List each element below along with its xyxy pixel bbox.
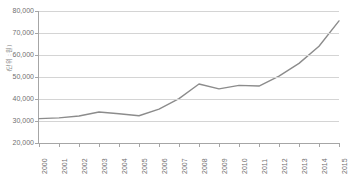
x-axis-tick-mark — [219, 143, 220, 147]
y-axis-tick-label: 20,000 — [13, 139, 34, 147]
x-axis-tick-mark — [259, 143, 260, 147]
x-axis-tick-mark — [159, 143, 160, 147]
y-axis-tick-mark — [35, 33, 39, 34]
x-axis-tick-mark — [119, 143, 120, 147]
x-axis-tick-mark — [279, 143, 280, 147]
x-axis-tick-mark — [319, 143, 320, 147]
y-axis-tick-mark — [35, 55, 39, 56]
y-axis-tick-label: 40,000 — [13, 95, 34, 103]
x-axis-tick-label-group: 2000200120022003200420052006200720082009… — [38, 148, 340, 178]
x-axis-tick-label: 2006 — [161, 148, 169, 174]
x-axis-tick-label: 2015 — [341, 148, 349, 174]
y-axis-tick-mark — [35, 77, 39, 78]
y-axis-tick-label: 70,000 — [13, 29, 34, 37]
x-axis-tick-label: 2014 — [321, 148, 329, 174]
plot-area — [38, 11, 339, 144]
x-axis-tick-mark — [59, 143, 60, 147]
gridline-horizontal — [39, 99, 339, 100]
x-axis-tick-label: 2009 — [221, 148, 229, 174]
x-axis-tick-mark — [299, 143, 300, 147]
y-axis-tick-label-group: 20,00030,00040,00050,00060,00070,00080,0… — [0, 0, 36, 150]
x-axis-tick-label: 2003 — [101, 148, 109, 174]
x-axis-tick-mark — [199, 143, 200, 147]
x-axis-tick-mark — [139, 143, 140, 147]
x-axis-tick-mark — [239, 143, 240, 147]
data-series-line — [39, 21, 339, 119]
gridline-horizontal — [39, 77, 339, 78]
y-axis-tick-mark — [35, 99, 39, 100]
y-axis-tick-label: 80,000 — [13, 7, 34, 15]
line-chart-figure: (단위 : 원) 20,00030,00040,00050,00060,0007… — [0, 0, 349, 184]
gridline-horizontal — [39, 121, 339, 122]
y-axis-tick-label: 30,000 — [13, 117, 34, 125]
x-axis-tick-mark — [339, 143, 340, 147]
gridline-horizontal — [39, 55, 339, 56]
x-axis-tick-label: 2007 — [181, 148, 189, 174]
x-axis-tick-label: 2010 — [241, 148, 249, 174]
gridline-horizontal — [39, 11, 339, 12]
x-axis-tick-mark — [79, 143, 80, 147]
x-axis-tick-label: 2000 — [41, 148, 49, 174]
x-axis-tick-label: 2008 — [201, 148, 209, 174]
x-axis-tick-label: 2004 — [121, 148, 129, 174]
x-axis-tick-mark — [99, 143, 100, 147]
gridline-horizontal — [39, 33, 339, 34]
x-axis-tick-label: 2005 — [141, 148, 149, 174]
x-axis-tick-label: 2011 — [261, 148, 269, 174]
x-axis-tick-label: 2002 — [81, 148, 89, 174]
y-axis-tick-label: 60,000 — [13, 51, 34, 59]
x-axis-tick-label: 2012 — [281, 148, 289, 174]
y-axis-tick-mark — [35, 11, 39, 12]
x-axis-tick-mark — [39, 143, 40, 147]
x-axis-tick-label: 2013 — [301, 148, 309, 174]
y-axis-tick-mark — [35, 121, 39, 122]
x-axis-tick-mark — [179, 143, 180, 147]
y-axis-tick-label: 50,000 — [13, 73, 34, 81]
x-axis-tick-label: 2001 — [61, 148, 69, 174]
